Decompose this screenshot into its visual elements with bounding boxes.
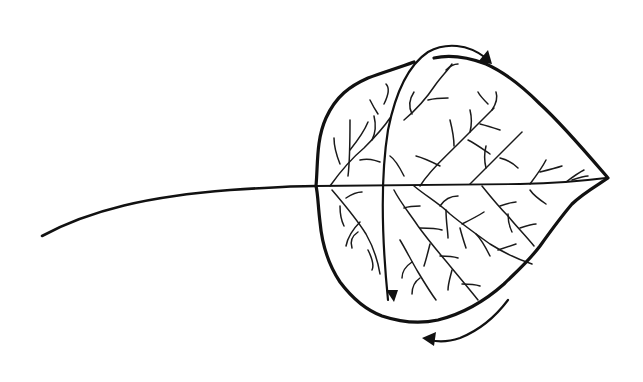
leaf-illustration — [0, 0, 643, 382]
leaf-drawing — [0, 0, 643, 382]
background — [0, 0, 643, 382]
